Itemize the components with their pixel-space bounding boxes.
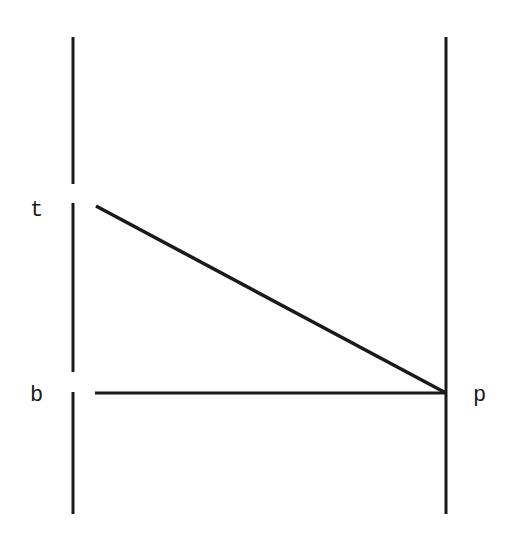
diagram-canvas — [0, 0, 518, 541]
label-b: b — [30, 385, 43, 407]
diagonal-line — [96, 206, 446, 393]
label-t: t — [30, 200, 43, 222]
label-p: p — [473, 385, 486, 407]
